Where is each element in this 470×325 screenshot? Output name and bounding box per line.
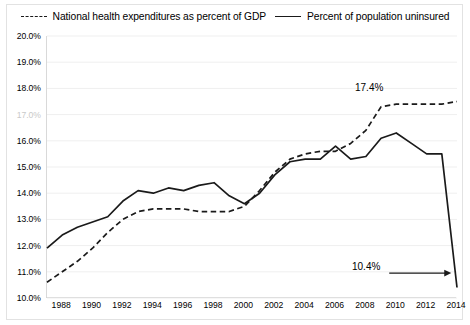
gridlines <box>47 36 457 298</box>
x-axis-tick-1994: 1994 <box>143 300 162 310</box>
y-axis-tick-140: 14.0% <box>17 188 41 198</box>
solid-line-swatch-icon <box>275 16 301 17</box>
y-axis-tick-170: 17.0% <box>17 110 41 120</box>
x-axis-tick-2004: 2004 <box>295 300 314 310</box>
x-axis-tick-2010: 2010 <box>386 300 405 310</box>
x-axis-tick-2000: 2000 <box>234 300 253 310</box>
x-axis-tick-1998: 1998 <box>203 300 222 310</box>
annotation-high-value: 17.4% <box>355 82 383 93</box>
x-axis-tick-2008: 2008 <box>355 300 374 310</box>
y-axis-labels: 10.0%11.0%12.0%13.0%14.0%15.0%16.0%17.0%… <box>0 0 46 325</box>
y-axis-tick-200: 20.0% <box>17 31 41 41</box>
legend-label-nhe: National health expenditures as percent … <box>53 11 266 22</box>
x-axis-tick-2012: 2012 <box>416 300 435 310</box>
legend-item-nhe: National health expenditures as percent … <box>21 11 266 22</box>
y-axis-tick-120: 12.0% <box>17 241 41 251</box>
x-axis-tick-1990: 1990 <box>82 300 101 310</box>
legend-label-uninsured: Percent of population uninsured <box>307 11 449 22</box>
y-axis-tick-180: 18.0% <box>17 83 41 93</box>
annotation-arrow-icon <box>389 270 451 277</box>
chart-legend: National health expenditures as percent … <box>0 6 470 26</box>
y-axis-tick-150: 15.0% <box>17 162 41 172</box>
x-axis-tick-2014: 2014 <box>446 300 465 310</box>
x-axis-tick-2002: 2002 <box>264 300 283 310</box>
y-axis-tick-100: 10.0% <box>17 293 41 303</box>
legend-item-uninsured: Percent of population uninsured <box>275 11 449 22</box>
y-axis-tick-110: 11.0% <box>17 267 41 277</box>
series-line-nhe <box>47 102 457 283</box>
y-axis-tick-190: 19.0% <box>17 57 41 67</box>
series-line-uninsured <box>47 133 457 288</box>
y-axis-tick-130: 13.0% <box>17 214 41 224</box>
plot-svg <box>47 36 457 298</box>
chart-container: National health expenditures as percent … <box>0 0 470 325</box>
x-axis-tick-2006: 2006 <box>325 300 344 310</box>
annotation-low-value: 10.4% <box>352 261 380 272</box>
x-axis-tick-1988: 1988 <box>52 300 71 310</box>
x-axis-tick-1996: 1996 <box>173 300 192 310</box>
x-axis-labels: 1988199019921994199619982000200220042006… <box>46 300 456 316</box>
y-axis-tick-160: 16.0% <box>17 136 41 146</box>
plot-area <box>46 36 456 298</box>
x-axis-tick-1992: 1992 <box>112 300 131 310</box>
